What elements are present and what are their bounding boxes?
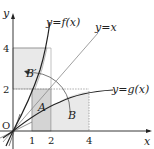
origin-label: O [2, 120, 10, 131]
x-axis-arrow-icon [146, 129, 152, 133]
y-tick-2: 2 [3, 84, 9, 95]
y-axis-arrow-icon [11, 13, 15, 19]
curve-f-label: y=f(x) [45, 16, 80, 29]
function-inverse-diagram: y x O 1 2 4 2 4 y=f(x) y=x y=g(x) A B B′ [0, 0, 154, 149]
region-a-label: A [37, 101, 46, 114]
y-axis-label: y [2, 7, 10, 20]
x-tick-1: 1 [29, 135, 35, 146]
identity-label: y=x [94, 21, 117, 34]
region-b-prime-label: B′ [25, 67, 37, 80]
curve-g-label: y=g(x) [111, 83, 149, 96]
x-tick-2: 2 [48, 135, 54, 146]
x-tick-4: 4 [86, 135, 92, 146]
y-tick-4: 4 [3, 43, 9, 54]
x-axis-label: x [144, 135, 151, 148]
region-b-label: B [67, 109, 76, 122]
